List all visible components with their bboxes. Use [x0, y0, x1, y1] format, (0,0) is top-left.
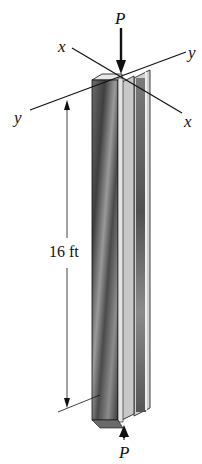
load-arrow-top — [116, 28, 126, 74]
y-axis-label-left: y — [12, 108, 22, 127]
web — [122, 76, 134, 420]
length-label: 16 ft — [49, 243, 79, 260]
column-diagram: P P x x y y 16 ft — [0, 0, 202, 464]
right-flange — [134, 70, 150, 416]
x-axis-label-left: x — [57, 37, 66, 56]
x-axis-label-right: x — [183, 112, 192, 131]
load-label-top: P — [114, 9, 125, 28]
left-flange — [92, 74, 123, 428]
y-axis-label-right: y — [186, 43, 196, 62]
load-label-bottom: P — [118, 443, 129, 462]
